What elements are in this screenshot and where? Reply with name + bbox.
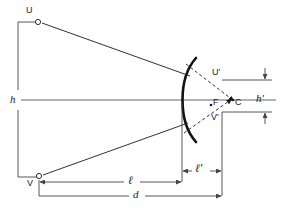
- object-top-marker: [35, 19, 40, 24]
- label-image-bottom: V': [211, 113, 219, 122]
- diagram-canvas: [0, 0, 281, 218]
- ray-v-dashed: [184, 99, 232, 133]
- label-object-distance: ℓ: [128, 175, 133, 187]
- focus-marker: [210, 104, 213, 107]
- ray-v-incident: [43, 123, 188, 175]
- incident-rays: [42, 23, 190, 175]
- image-height-leaders: [222, 80, 272, 112]
- label-center: C: [235, 98, 242, 107]
- label-object-top: U: [26, 6, 33, 15]
- label-image-distance: ℓ′: [195, 163, 202, 175]
- label-focus: F: [213, 98, 219, 107]
- label-object-bottom: V: [27, 179, 33, 188]
- object-height-bracket: [18, 22, 38, 177]
- construction-rays: [184, 64, 234, 133]
- label-image-height: h′: [256, 93, 264, 104]
- object-bottom-marker: [36, 173, 41, 178]
- label-object-height: h: [10, 94, 16, 105]
- ray-u-incident: [42, 23, 190, 76]
- ray-diagram-figure: U V U' V' F C h h′ ℓ ℓ′ d: [0, 0, 281, 218]
- ray-u-dashed: [186, 64, 234, 101]
- label-total-distance: d: [133, 189, 139, 200]
- label-image-top: U': [212, 68, 220, 77]
- center-marker: [232, 99, 235, 102]
